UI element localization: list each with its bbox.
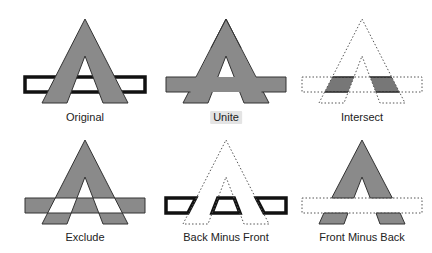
label-unite: Unite: [210, 111, 242, 124]
label-intersect: Intersect: [341, 111, 383, 124]
label-front-minus-back: Front Minus Back: [319, 231, 405, 244]
panel-exclude: [25, 140, 145, 224]
panel-original: [25, 19, 145, 103]
label-exclude: Exclude: [65, 231, 104, 244]
label-original: Original: [66, 111, 104, 124]
panel-front-minus-back: [302, 140, 422, 224]
diagram-canvas: [0, 0, 432, 253]
panel-intersect: [302, 19, 422, 103]
label-back-minus-front: Back Minus Front: [183, 231, 269, 244]
panel-back-minus-front: [166, 140, 286, 224]
panel-unite: [166, 19, 286, 103]
